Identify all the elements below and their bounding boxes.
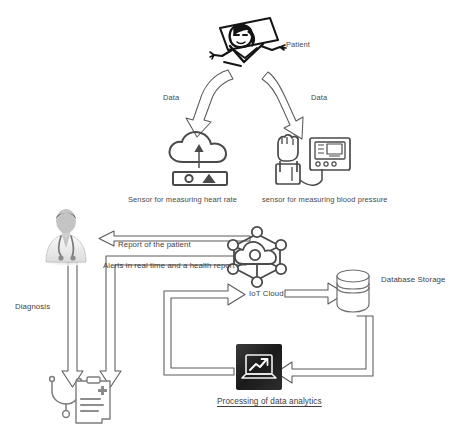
edge-label-alerts-in-real-time: Alerts in real time and a health report (103, 262, 235, 271)
arrow-iotcloud-alerts-to-record (100, 256, 246, 387)
arrow-patient-to-heart-rate (186, 70, 233, 137)
blood-pressure-sensor-label: sensor for measuring blood pressure (262, 196, 388, 204)
doctor-avatar-icon (40, 208, 92, 266)
arrow-database-to-analytics (276, 316, 373, 383)
doctor-figure (40, 208, 92, 266)
heart-rate-sensor-figure (163, 128, 237, 186)
edge-label-report-of-the-patient: Report of the patient (118, 241, 191, 250)
iot-cloud-figure (226, 226, 288, 288)
edge-label-data-left: Data (163, 94, 179, 102)
arrow-analytics-to-iotcloud (164, 284, 245, 375)
edge-label-data-right: Data (311, 94, 327, 102)
heart-rate-sensor-label: Sensor for measuring heart rate (128, 196, 237, 204)
patient-figure (208, 14, 292, 76)
iot-cloud-label: IoT Cloud (249, 290, 284, 299)
patient-in-bed-icon (208, 14, 292, 76)
medical-record-figure (46, 375, 114, 425)
cloud-upload-device-icon (163, 128, 237, 186)
database-storage-figure (332, 266, 374, 316)
laptop-chart-icon (236, 344, 282, 390)
database-storage-label: Database Storage (381, 276, 445, 285)
blood-pressure-sensor-figure (270, 128, 354, 190)
iot-network-cloud-icon (226, 226, 288, 288)
data-analytics-figure (236, 344, 282, 390)
blood-pressure-monitor-icon (270, 128, 354, 190)
database-cylinder-icon (332, 266, 374, 316)
arrow-doctor-to-record (62, 262, 83, 387)
patient-label: Patient (286, 41, 310, 49)
medical-clipboard-stethoscope-icon (46, 375, 114, 425)
edge-label-diagnosis: Diagnosis (15, 303, 50, 312)
data-analytics-label: Processing of data analytics (217, 397, 322, 406)
diagram-canvas: Patient Data Data Sensor for measuring h… (0, 0, 459, 429)
